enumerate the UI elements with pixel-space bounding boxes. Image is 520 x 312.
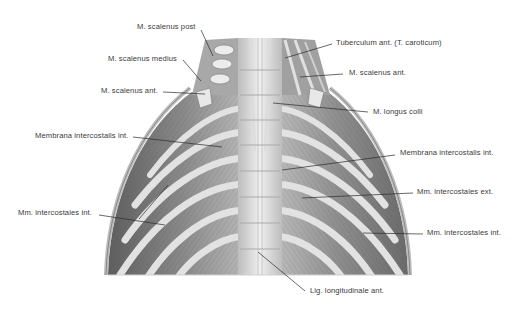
vertebral-column — [238, 38, 282, 275]
label-longus-colli: M. longus colli — [373, 108, 423, 116]
label-scalenus-ant-left: M. scalenus ant. — [101, 87, 158, 95]
label-intercostales-ext: Mm. intercostales ext. — [417, 188, 493, 196]
label-membrana-intercostalis-left: Membrana intercostalis int. — [35, 132, 128, 140]
label-intercostales-int-right: Mm. intercostales int. — [427, 229, 501, 237]
label-scalenus-post: M. scalenus post — [137, 23, 196, 31]
label-lig-longitudinale: Lig. longitudinale ant. — [310, 287, 384, 295]
label-membrana-intercostalis-right: Membrana intercostalis int. — [400, 149, 493, 157]
label-scalenus-medius: M. scalenus medius — [108, 55, 177, 63]
label-tuberculum-ant: Tuberculum ant. (T. caroticum) — [336, 39, 442, 47]
label-scalenus-ant-right: M. scalenus ant. — [349, 69, 406, 77]
label-intercostales-int-left: Mm. intercostales int. — [18, 209, 92, 217]
anatomical-figure: M. scalenus post M. scalenus medius M. s… — [0, 0, 520, 312]
